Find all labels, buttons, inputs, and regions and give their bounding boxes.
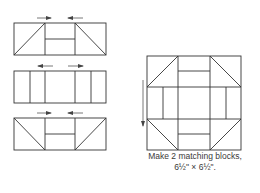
- assembled-block: [147, 56, 241, 150]
- top-unit: [14, 23, 106, 55]
- block-caption: Make 2 matching blocks, 6½" × 6½".: [134, 151, 256, 173]
- caption-line-1: Make 2 matching blocks,: [134, 151, 256, 162]
- caption-line-2: 6½" × 6½".: [134, 162, 256, 173]
- middle-unit: [14, 71, 106, 103]
- bottom-unit: [14, 118, 106, 150]
